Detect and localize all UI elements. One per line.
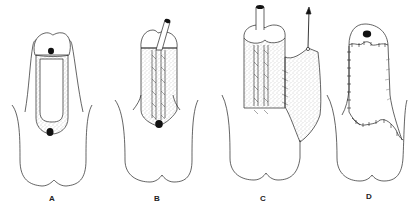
panel-label-c: C [260, 194, 266, 203]
panel-label-d: D [366, 192, 372, 201]
panel-d [327, 24, 407, 181]
panel-c [222, 5, 321, 180]
panel-b [115, 18, 198, 182]
panel-label-b: B [154, 194, 160, 203]
panel-label-a: A [49, 194, 55, 203]
surgical-illustration [0, 0, 413, 209]
panel-a [12, 33, 92, 186]
